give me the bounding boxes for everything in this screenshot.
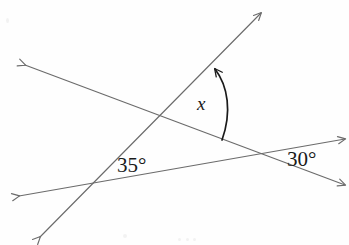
angle-label-35: 35° bbox=[117, 155, 146, 176]
geometry-canvas bbox=[0, 0, 349, 245]
scan-artifact-speck bbox=[6, 18, 9, 23]
angle-diagram-figure: 35° 30° x bbox=[0, 0, 349, 245]
scan-artifact-speck bbox=[178, 238, 181, 241]
scan-artifact-speck bbox=[193, 238, 196, 241]
scan-artifact-speck bbox=[123, 234, 127, 238]
angle-label-x: x bbox=[197, 94, 205, 113]
line-lower-left-to-upper-right-steep bbox=[40, 13, 261, 237]
scan-artifact-speck bbox=[186, 238, 189, 241]
arc-angle-x bbox=[215, 69, 228, 140]
angle-label-30: 30° bbox=[287, 149, 316, 170]
